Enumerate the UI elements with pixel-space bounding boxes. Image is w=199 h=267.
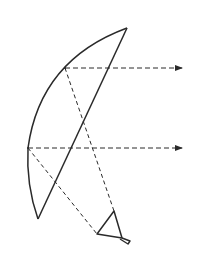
- lower-reflection-point: [27, 147, 29, 149]
- reflector-antenna-diagram: [0, 0, 199, 267]
- reflector-chord: [38, 28, 127, 219]
- lower-ray-from-feed: [28, 148, 97, 234]
- upper-reflection-point: [64, 67, 66, 69]
- reflector-arc: [28, 28, 127, 219]
- upper-ray-from-feed: [65, 68, 114, 211]
- feed-horn-icon: [97, 211, 130, 244]
